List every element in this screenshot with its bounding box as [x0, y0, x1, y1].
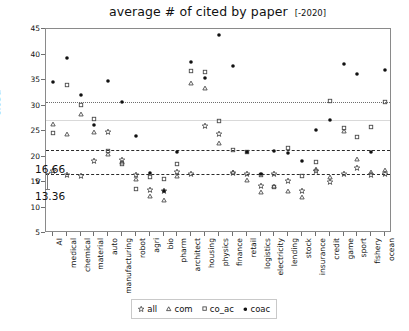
x-tick-label: game — [346, 238, 355, 260]
annotation-arrow-label: v — [35, 175, 41, 186]
data-point-all — [271, 171, 277, 177]
chart-title-main: average # of cited by paper — [109, 4, 288, 19]
x-tick-label: fishery — [373, 238, 382, 264]
data-point-co_ac — [272, 185, 277, 190]
data-point-all — [91, 158, 97, 164]
x-tick-mark — [121, 232, 122, 236]
data-point-all — [105, 129, 111, 135]
data-point-com — [299, 194, 304, 199]
legend-item-co_ac[interactable]: co_ac — [202, 304, 234, 314]
data-point-all — [216, 130, 222, 136]
x-tick-mark — [384, 232, 385, 236]
data-point-co_ac — [341, 126, 346, 131]
data-point-co_ac — [369, 125, 374, 130]
x-tick-label: stock — [304, 238, 313, 258]
x-tick-mark — [343, 232, 344, 236]
data-point-all — [77, 173, 83, 179]
data-point-co_ac — [203, 69, 208, 74]
data-point-coac — [189, 60, 194, 65]
data-point-all — [243, 171, 249, 177]
x-tick-mark — [93, 232, 94, 236]
data-point-all — [327, 179, 333, 185]
data-point-co_ac — [64, 82, 69, 87]
legend-marker-square-icon — [202, 306, 207, 311]
x-tick-mark — [176, 232, 177, 236]
x-tick-label: electricity — [276, 238, 285, 276]
reference-line — [46, 174, 390, 175]
data-point-co_ac — [286, 146, 291, 151]
x-tick-mark — [329, 232, 330, 236]
x-tick-mark — [66, 232, 67, 236]
x-tick-label: lending — [290, 238, 299, 266]
data-point-coac — [244, 150, 249, 155]
data-point-coac — [300, 158, 305, 163]
legend-label: all — [147, 304, 157, 314]
legend-label: co_ac — [210, 304, 234, 314]
data-point-coac — [161, 188, 166, 193]
x-tick-label: finance — [235, 238, 244, 266]
data-point-com — [189, 80, 194, 85]
legend-marker-star-icon — [138, 306, 144, 312]
x-tick-label: credit — [332, 238, 341, 260]
y-tick-label: 20 — [30, 151, 40, 160]
data-point-com — [92, 129, 97, 134]
data-point-com — [50, 122, 55, 127]
data-point-co_ac — [175, 162, 180, 167]
data-point-coac — [203, 76, 208, 81]
data-point-coac — [258, 172, 263, 177]
x-tick-label: agri — [152, 238, 161, 253]
legend-marker-circle-icon — [243, 307, 248, 312]
x-tick-mark — [273, 232, 274, 236]
reference-line — [46, 102, 390, 103]
y-tick-label: 10 — [30, 202, 40, 211]
x-tick-label: AI — [55, 238, 64, 245]
x-tick-mark — [370, 232, 371, 236]
data-point-co_ac — [313, 159, 318, 164]
data-point-co_ac — [161, 177, 166, 182]
x-tick-mark — [315, 232, 316, 236]
data-point-com — [382, 167, 387, 172]
data-point-co_ac — [120, 161, 125, 166]
data-point-com — [285, 188, 290, 193]
x-tick-label: robot — [138, 238, 147, 258]
x-tick-label: chemical — [83, 238, 92, 272]
data-point-com — [355, 156, 360, 161]
y-tick-label: 30 — [30, 100, 40, 109]
data-point-co_ac — [355, 135, 360, 140]
annotation-range-cap — [45, 173, 50, 174]
data-point-all — [340, 171, 346, 177]
legend-label: coac — [250, 304, 270, 314]
data-point-all — [354, 165, 360, 171]
reference-line — [46, 150, 390, 151]
x-tick-label: insurance — [318, 238, 327, 275]
data-point-com — [230, 169, 235, 174]
data-point-coac — [78, 92, 83, 97]
x-tick-label: manufacturing — [124, 238, 133, 294]
x-tick-mark — [356, 232, 357, 236]
data-point-co_ac — [50, 130, 55, 135]
y-tick-label: 35 — [30, 75, 40, 84]
data-point-com — [369, 169, 374, 174]
x-tick-label: retail — [249, 238, 258, 257]
data-point-coac — [314, 128, 319, 133]
x-tick-mark — [80, 232, 81, 236]
x-tick-mark — [218, 232, 219, 236]
chart-title-suffix: [-2020] — [295, 8, 326, 18]
legend-item-all[interactable]: all — [138, 304, 157, 314]
data-point-com — [216, 141, 221, 146]
data-point-co_ac — [189, 68, 194, 73]
legend-item-com[interactable]: com — [166, 304, 193, 314]
data-point-com — [133, 177, 138, 182]
data-point-coac — [134, 134, 139, 139]
chart-page: average # of cited by paper [-2020] cite… — [0, 0, 409, 331]
data-point-coac — [51, 80, 56, 85]
data-point-coac — [148, 171, 153, 176]
x-tick-label: sport — [359, 238, 368, 258]
data-point-co_ac — [92, 117, 97, 122]
legend-item-coac[interactable]: coac — [243, 304, 270, 314]
data-point-co_ac — [382, 99, 387, 104]
x-tick-mark — [52, 232, 53, 236]
x-tick-label: architect — [193, 238, 202, 272]
y-tick-label: 25 — [30, 126, 40, 135]
x-tick-label: pharm — [179, 238, 188, 263]
